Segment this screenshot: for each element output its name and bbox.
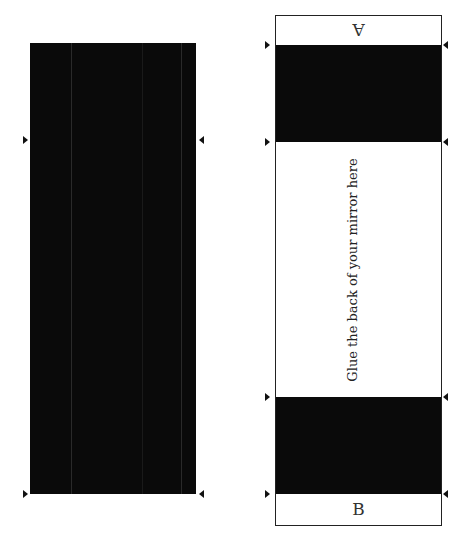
- alignment-marker-left-icon: [443, 138, 448, 146]
- alignment-marker-right-icon: [265, 138, 270, 146]
- panel-streak: [71, 43, 72, 494]
- panel-streak: [181, 43, 182, 494]
- label-a-inverted: A: [276, 18, 441, 42]
- alignment-marker-left-icon: [199, 136, 204, 144]
- alignment-marker-left-icon: [443, 41, 448, 49]
- glue-instruction-text: Glue the back of your mirror here: [345, 158, 360, 381]
- alignment-marker-left-icon: [443, 393, 448, 401]
- alignment-marker-right-icon: [265, 41, 270, 49]
- alignment-marker-right-icon: [23, 490, 28, 498]
- bottom-black-band: [276, 397, 441, 494]
- left-mirror-panel: [30, 43, 196, 494]
- panel-streak: [142, 43, 143, 494]
- alignment-marker-left-icon: [443, 490, 448, 498]
- alignment-marker-right-icon: [23, 136, 28, 144]
- label-b: B: [276, 497, 441, 521]
- top-black-band: [276, 45, 441, 142]
- alignment-marker-right-icon: [265, 490, 270, 498]
- alignment-marker-left-icon: [199, 490, 204, 498]
- alignment-marker-right-icon: [265, 393, 270, 401]
